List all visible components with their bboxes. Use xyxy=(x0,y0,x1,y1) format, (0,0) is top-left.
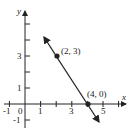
x-axis-label: x xyxy=(121,92,126,102)
y-tick-label: 1 xyxy=(17,83,22,93)
point-4-0 xyxy=(85,101,90,106)
y-tick-label: -1 xyxy=(13,115,21,125)
coordinate-plane: x y -1 0 1 3 5 -1 1 3 (2, 3) (4, 0) xyxy=(0,0,133,134)
point-2-3 xyxy=(54,53,59,58)
x-tick-label: 3 xyxy=(69,106,74,116)
x-tick-label: 5 xyxy=(101,106,106,116)
y-ticks xyxy=(25,24,30,120)
point-label: (4, 0) xyxy=(87,89,107,99)
x-tick-label: 1 xyxy=(38,106,43,116)
x-tick-label: -1 xyxy=(3,106,11,116)
y-axis-label: y xyxy=(16,6,21,16)
y-tick-label: 3 xyxy=(17,51,22,61)
point-label: (2, 3) xyxy=(61,46,81,56)
